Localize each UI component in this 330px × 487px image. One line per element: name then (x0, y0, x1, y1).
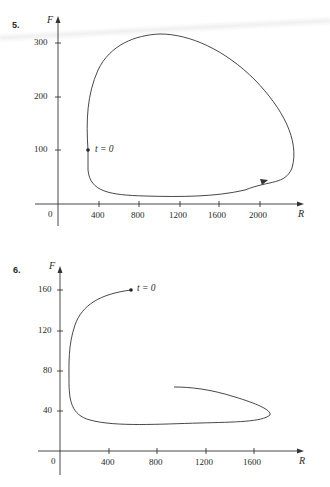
x-tick-label: 1200 (195, 457, 213, 467)
y-axis-label: F (47, 14, 53, 25)
chart-problem-5: 5. F 300 200 100 0 400 800 1200 1600 200… (0, 0, 330, 240)
t0-point (86, 148, 90, 152)
origin-label: 0 (51, 456, 56, 466)
t0-annotation: t = 0 (137, 283, 156, 293)
x-axis-arrow-icon (297, 449, 304, 454)
x-tick-label: 800 (131, 210, 145, 220)
y-axis-arrow-icon (58, 266, 63, 273)
x-axis-arrow-icon (297, 202, 304, 207)
problem-number: 6. (13, 265, 21, 275)
trajectory-curve (87, 34, 294, 196)
y-tick-label: 100 (34, 144, 48, 154)
y-tick-label: 120 (38, 325, 52, 335)
x-tick-label: 1600 (243, 457, 261, 467)
y-tick-label: 300 (34, 37, 48, 47)
x-tick-label: 1200 (169, 210, 187, 220)
chart-6-svg (0, 240, 330, 487)
y-axis-arrow-icon (56, 16, 61, 23)
x-tick-label: 800 (149, 457, 163, 467)
x-axis-label: R (299, 455, 305, 466)
t0-annotation: t = 0 (95, 144, 114, 154)
y-axis-label: F (49, 260, 55, 271)
problem-number: 5. (12, 20, 20, 30)
x-tick-label: 2000 (249, 210, 267, 220)
chart-problem-6: 6. F 160 120 80 40 0 400 800 1200 1600 R… (0, 240, 330, 487)
y-tick-label: 160 (38, 284, 52, 294)
t0-point (129, 288, 133, 292)
x-tick-label: 400 (101, 457, 115, 467)
x-tick-label: 1600 (208, 210, 226, 220)
y-tick-label: 80 (43, 365, 52, 375)
x-axis-label: R (298, 208, 304, 219)
chart-5-svg (0, 0, 330, 240)
y-tick-label: 40 (43, 405, 52, 415)
trajectory-curve (69, 290, 270, 425)
origin-label: 0 (48, 209, 53, 219)
y-tick-label: 200 (34, 91, 48, 101)
x-tick-label: 400 (91, 210, 105, 220)
